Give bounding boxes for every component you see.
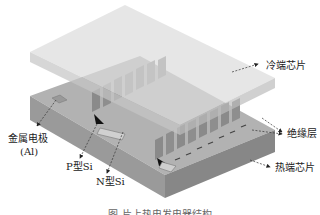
label-cold-chip: 冷端芯片	[266, 60, 306, 71]
label-hot-chip: 热端芯片	[275, 162, 315, 173]
label-insulation: 绝缘层	[287, 128, 317, 139]
label-n-si: N型Si	[96, 176, 125, 187]
diagram-canvas: 冷端芯片 绝缘层 热端芯片 金属电极 (Al) P型Si N型Si 图 片上热电…	[0, 0, 320, 215]
label-metal-electrode: 金属电极	[8, 133, 48, 144]
label-metal-electrode-al: (Al)	[20, 146, 38, 157]
label-p-si: P型Si	[66, 161, 93, 172]
figure-caption: 图 片上热电发电器结构	[0, 209, 320, 215]
thermoelectric-structure-figure	[0, 0, 320, 215]
